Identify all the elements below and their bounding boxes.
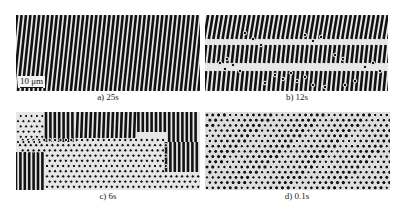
- caption-b: b) 12s: [205, 92, 389, 102]
- panel-b-image: [205, 15, 388, 91]
- scale-bar: 10 μm: [18, 76, 45, 89]
- mixed-pattern: [16, 112, 200, 190]
- hex-dot-pattern: [205, 112, 390, 190]
- caption-a: a) 25s: [16, 92, 200, 102]
- caption-d: d) 0.1s: [205, 191, 389, 201]
- panel-d-image: [205, 112, 390, 190]
- caption-c: c) 6s: [16, 191, 200, 201]
- panel-a-image: 10 μm: [16, 15, 200, 91]
- stripe-hex-pattern: [205, 15, 388, 91]
- scale-bar-line: [20, 87, 43, 89]
- scale-bar-label: 10 μm: [20, 76, 43, 86]
- panel-c-image: [16, 112, 200, 190]
